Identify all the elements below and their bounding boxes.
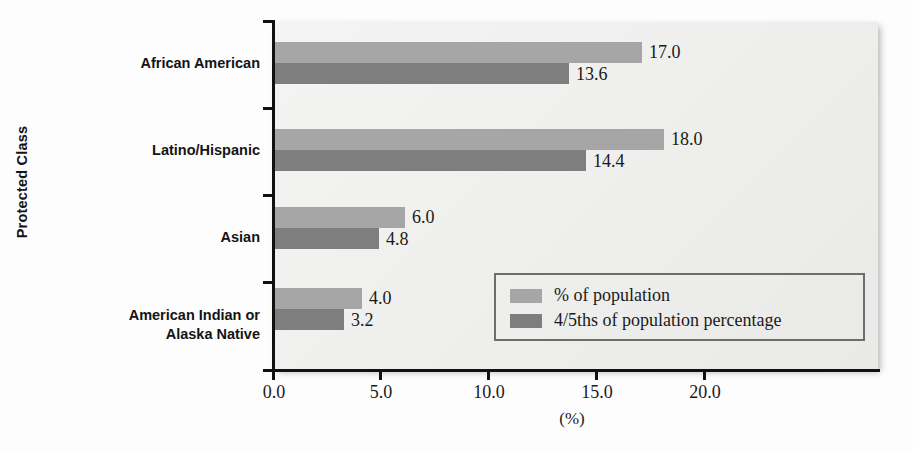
bar-value-asian-four-fifths: 4.8 — [386, 229, 409, 250]
bar-american-indian-four-fifths — [275, 309, 344, 330]
bar-value-african-american-population: 17.0 — [649, 42, 681, 63]
x-axis-tick — [379, 369, 382, 380]
bar-value-latino-hispanic-population: 18.0 — [671, 129, 703, 150]
bar-american-indian-population — [275, 288, 362, 309]
x-axis-tick-label-20: 20.0 — [665, 382, 745, 403]
category-label-american-indian-alaska-native: American Indian or Alaska Native — [20, 306, 260, 344]
y-axis-tick — [263, 194, 274, 197]
legend-label-population: % of population — [554, 285, 670, 306]
bar-value-american-indian-four-fifths: 3.2 — [351, 310, 374, 331]
legend-swatch-population-icon — [510, 289, 542, 303]
bar-african-american-population — [275, 42, 642, 63]
bar-latino-hispanic-population — [275, 129, 664, 150]
bar-asian-four-fifths — [275, 228, 379, 249]
bar-african-american-four-fifths — [275, 63, 569, 84]
x-axis-tick — [272, 369, 275, 380]
x-axis-line — [263, 369, 880, 372]
x-axis-tick — [595, 369, 598, 380]
x-axis-tick-label-5: 5.0 — [341, 382, 421, 403]
y-axis-tick — [263, 281, 274, 284]
category-label-latino-hispanic: Latino/Hispanic — [20, 141, 260, 160]
x-axis-tick — [487, 369, 490, 380]
category-label-african-american: African American — [20, 54, 260, 73]
legend-swatch-four-fifths-icon — [510, 314, 542, 328]
bar-latino-hispanic-four-fifths — [275, 150, 586, 171]
y-axis-title: Protected Class — [14, 82, 30, 282]
category-label-asian: Asian — [20, 228, 260, 247]
bar-value-african-american-four-fifths: 13.6 — [576, 64, 608, 85]
legend-entry-four-fifths: 4/5ths of population percentage — [510, 308, 863, 333]
bar-chart-figure: Protected Class African American Latino/… — [0, 0, 913, 450]
x-axis-title: (%) — [517, 409, 627, 429]
bar-value-asian-population: 6.0 — [412, 207, 435, 228]
bar-value-latino-hispanic-four-fifths: 14.4 — [593, 151, 625, 172]
x-axis-tick — [703, 369, 706, 380]
y-axis-tick — [263, 107, 274, 110]
bar-value-american-indian-population: 4.0 — [369, 288, 392, 309]
legend-label-four-fifths: 4/5ths of population percentage — [554, 310, 781, 331]
x-axis-tick-label-10: 10.0 — [449, 382, 529, 403]
y-axis-tick — [263, 20, 274, 23]
x-axis-tick-label-15: 15.0 — [557, 382, 637, 403]
legend-entry-population: % of population — [510, 283, 863, 308]
bar-asian-population — [275, 207, 405, 228]
x-axis-tick-label-0: 0.0 — [234, 382, 314, 403]
legend: % of population 4/5ths of population per… — [494, 273, 865, 341]
